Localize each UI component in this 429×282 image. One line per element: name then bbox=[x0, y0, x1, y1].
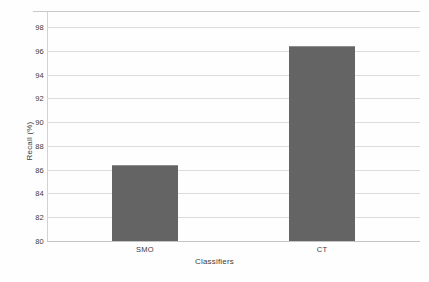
gridline bbox=[47, 193, 420, 194]
y-axis-title: Recall (%) bbox=[25, 122, 34, 161]
gridline bbox=[47, 98, 420, 99]
x-tick-label: CT bbox=[317, 245, 328, 254]
x-tick-label: SMO bbox=[136, 245, 154, 254]
gridline bbox=[47, 75, 420, 76]
y-tick-label: 80 bbox=[2, 237, 44, 246]
y-tick-label: 94 bbox=[2, 70, 44, 79]
gridline bbox=[47, 217, 420, 218]
y-tick-label: 82 bbox=[2, 213, 44, 222]
x-axis-title: Classifiers bbox=[0, 257, 429, 266]
y-tick-label: 98 bbox=[2, 23, 44, 32]
y-tick-label: 88 bbox=[2, 141, 44, 150]
y-tick-label: 96 bbox=[2, 46, 44, 55]
y-tick-label: 86 bbox=[2, 165, 44, 174]
gridline bbox=[47, 51, 420, 52]
y-tick-label: 84 bbox=[2, 189, 44, 198]
y-axis-line bbox=[47, 11, 48, 242]
gridline bbox=[47, 27, 420, 28]
plot-top-border bbox=[33, 11, 420, 12]
y-tick-label: 92 bbox=[2, 94, 44, 103]
gridline bbox=[47, 146, 420, 147]
bar-smo bbox=[112, 165, 178, 241]
bar-ct bbox=[289, 46, 355, 241]
gridline bbox=[47, 170, 420, 171]
y-tick-label: 90 bbox=[2, 118, 44, 127]
gridline bbox=[47, 122, 420, 123]
gridline bbox=[47, 241, 420, 242]
bar-chart: 80828486889092949698 SMOCT Classifiers R… bbox=[0, 0, 429, 282]
